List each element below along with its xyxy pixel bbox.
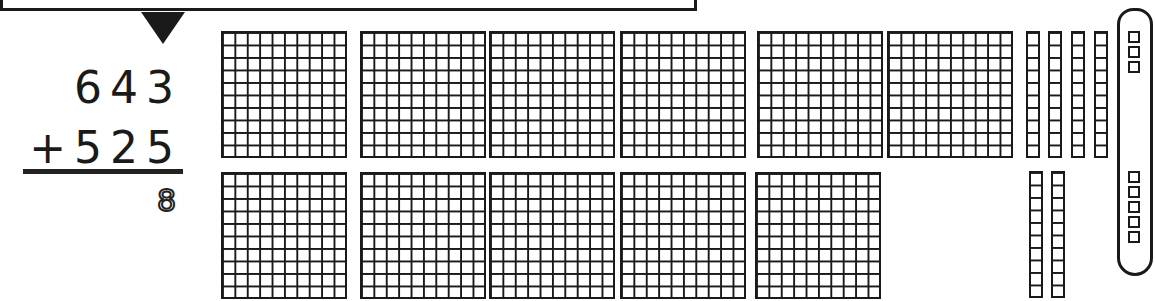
hundreds-flat [887,31,1013,158]
tens-rod [1094,31,1108,158]
hundreds-flat [755,172,881,299]
tens-rod [1048,31,1062,158]
callout-box [0,0,697,11]
addend-1: 643 [74,66,182,110]
answer-ones-digit: 8 [157,186,176,216]
ones-circle [1117,8,1153,276]
hundreds-flat [489,172,615,299]
tens-rod [1029,171,1043,298]
hundreds-flat [489,31,615,158]
hundreds-flat [360,31,486,158]
pointer-triangle-icon [141,12,185,44]
hundreds-flat [360,172,486,299]
hundreds-flat [757,31,883,158]
tens-rod [1051,171,1065,298]
hundreds-flat [221,172,347,299]
addend-2: +525 [29,126,182,170]
hundreds-flat [221,31,347,158]
tens-rod [1026,31,1040,158]
hundreds-flat [620,31,746,158]
tens-rod [1071,31,1085,158]
sum-line [23,169,183,174]
hundreds-flat [620,172,746,299]
